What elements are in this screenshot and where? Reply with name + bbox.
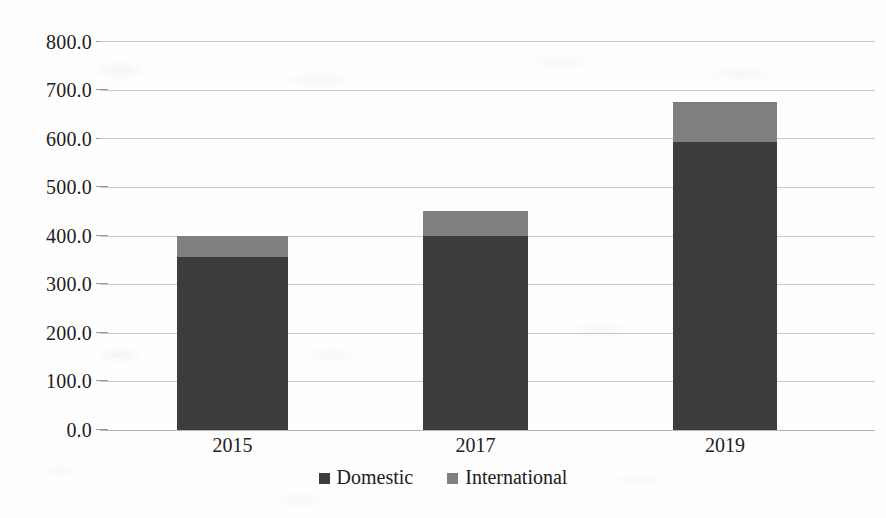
chart-legend: Domestic International [0, 466, 886, 488]
legend-label-domestic: Domestic [337, 466, 414, 488]
y-tick-label-700: 700.0 [2, 80, 92, 100]
legend-swatch-domestic-icon [319, 473, 330, 484]
bar-group-2019[interactable] [673, 102, 777, 430]
gridline-0 [100, 430, 875, 431]
y-tick-label-100: 100.0 [2, 371, 92, 391]
y-tick-label-800: 800.0 [2, 32, 92, 52]
y-tick-label-600: 600.0 [2, 129, 92, 149]
y-tick-label-200: 200.0 [2, 323, 92, 343]
bar-segment-2015-international[interactable] [177, 236, 288, 256]
legend-swatch-international-icon [447, 473, 458, 484]
legend-label-international: International [465, 466, 567, 488]
legend-item-international[interactable]: International [447, 466, 567, 488]
x-tick-label-2017: 2017 [423, 434, 528, 456]
bar-segment-2019-international[interactable] [673, 102, 777, 142]
bar-segment-2017-international[interactable] [423, 211, 528, 235]
gridline-700 [100, 90, 875, 91]
legend-item-domestic[interactable]: Domestic [319, 466, 414, 488]
bar-segment-2017-domestic[interactable] [423, 236, 528, 431]
y-tick-label-0: 0.0 [2, 420, 92, 440]
y-tick-label-500: 500.0 [2, 177, 92, 197]
y-tick-label-300: 300.0 [2, 274, 92, 294]
bar-group-2017[interactable] [423, 211, 528, 430]
x-tick-label-2019: 2019 [673, 434, 777, 456]
y-tick-label-400: 400.0 [2, 226, 92, 246]
bar-segment-2019-domestic[interactable] [673, 142, 777, 430]
plot-area [100, 41, 875, 430]
gridline-800 [100, 41, 875, 42]
x-tick-label-2015: 2015 [177, 434, 288, 456]
bar-group-2015[interactable] [177, 236, 288, 430]
bar-segment-2015-domestic[interactable] [177, 257, 288, 430]
stacked-bar-chart: 800.0 700.0 600.0 500.0 400.0 300.0 200.… [0, 0, 886, 518]
